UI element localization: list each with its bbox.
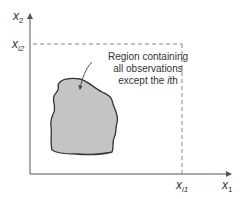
y-axis-label: x2: [12, 9, 24, 25]
observation-region: [51, 78, 118, 154]
annotation-line-2: all observations: [113, 63, 182, 74]
x-marker-label: xi1: [175, 178, 188, 194]
x-axis-label: x1: [221, 178, 233, 194]
diagram-canvas: Region containing all observations excep…: [0, 0, 247, 199]
annotation-line-3: except the ith: [118, 75, 178, 86]
annotation-line-1: Region containing: [108, 51, 188, 62]
y-marker-label: xi2: [11, 37, 25, 53]
